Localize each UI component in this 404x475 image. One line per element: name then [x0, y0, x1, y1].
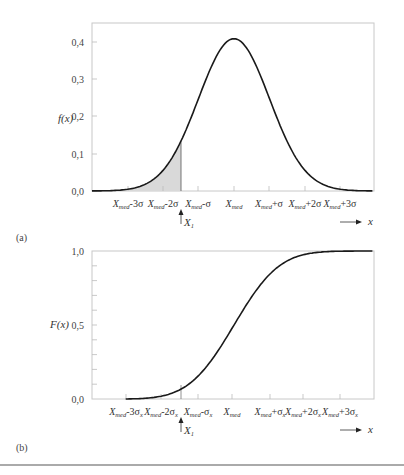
x-tick-label: Xmed	[223, 406, 242, 418]
cdf-y-axis-label: F(x)	[49, 318, 69, 331]
x-tick-label: Xmed-3σx	[108, 406, 143, 418]
x1-marker-top: X1	[179, 209, 194, 229]
x-tick-label: Xmed-3σ	[112, 198, 144, 210]
x-direction-arrow-top: x	[340, 215, 373, 227]
right-arrow-icon	[356, 220, 362, 225]
x-tick-label: Xmed+3σx	[321, 406, 358, 418]
up-arrow-icon	[179, 417, 184, 423]
x-tick-label: Xmed-2σx	[143, 406, 178, 418]
x1-marker-bottom: X1	[179, 417, 194, 437]
x-tick-label: Xmed	[225, 198, 244, 210]
y-tick-label: 0,2	[72, 111, 85, 122]
svg-text:x: x	[367, 215, 373, 227]
panel-label-b: (b)	[16, 442, 28, 454]
cdf-y-axis: 0,00,51,0	[72, 246, 98, 405]
cdf-chart: 0,00,51,0 Xmed-3σxXmed-2σxXmed-σxXmedXme…	[16, 246, 374, 455]
svg-text:X1: X1	[183, 424, 194, 437]
x-direction-arrow-bottom: x	[340, 423, 373, 435]
x-tick-label: Xmed-σx	[183, 406, 213, 418]
y-tick-label: 0,1	[72, 149, 85, 160]
pdf-shaded-area	[92, 141, 181, 191]
cdf-plot-frame	[92, 251, 374, 399]
svg-text:X1: X1	[183, 216, 194, 229]
x-tick-label: Xmed-σ	[184, 198, 211, 210]
figure-canvas: 0,00,10,20,30,4 Xmed-3σXmed-2σXmed-σXmed…	[0, 0, 404, 475]
panel-label-a: (a)	[16, 232, 27, 244]
page-divider	[0, 464, 404, 466]
y-tick-label: 0,0	[72, 394, 85, 405]
y-tick-label: 1,0	[72, 246, 85, 257]
x-tick-label: Xmed+2σ	[288, 198, 323, 210]
y-tick-label: 0,0	[72, 186, 85, 197]
pdf-y-axis-label: f(x)	[58, 112, 74, 125]
pdf-y-axis: 0,00,10,20,30,4	[72, 37, 98, 197]
pdf-curve	[92, 39, 372, 191]
y-tick-label: 0,5	[72, 320, 85, 331]
x-tick-label: Xmed+3σ	[323, 198, 358, 210]
x-tick-label: Xmed+2σx	[284, 406, 321, 418]
x-tick-label: Xmed+σ	[254, 198, 284, 210]
right-arrow-icon	[356, 428, 362, 433]
x-tick-label: Xmed-2σ	[147, 198, 179, 210]
svg-text:x: x	[367, 423, 373, 435]
up-arrow-icon	[179, 209, 184, 215]
y-tick-label: 0,4	[72, 37, 85, 48]
cdf-curve	[126, 251, 373, 399]
x-tick-label: Xmed+σx	[254, 406, 286, 418]
pdf-chart: 0,00,10,20,30,4 Xmed-3σXmed-2σXmed-σXmed…	[16, 23, 374, 244]
pdf-plot-frame	[92, 23, 374, 191]
y-tick-label: 0,3	[72, 74, 85, 85]
